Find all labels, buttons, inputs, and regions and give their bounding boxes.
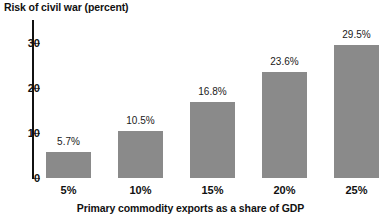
plot-area: 3020100 5.7%10.5%16.8%23.6%29.5% 5%10%15… <box>0 0 381 216</box>
bar <box>118 131 163 178</box>
x-axis-title: Primary commodity exports as a share of … <box>0 202 381 214</box>
x-tick-label: 25% <box>324 185 381 196</box>
bar-value-label: 10.5% <box>108 116 173 126</box>
bar <box>262 72 307 178</box>
bar <box>46 152 91 178</box>
x-tick-label: 15% <box>180 185 245 196</box>
x-tick-label: 20% <box>252 185 317 196</box>
y-tick-label: 30 <box>12 38 40 49</box>
bar-value-label: 16.8% <box>180 87 245 97</box>
bar-chart-figure: Risk of civil war (percent) 3020100 5.7%… <box>0 0 381 216</box>
bar-value-label: 5.7% <box>36 137 101 147</box>
bar-value-label: 23.6% <box>252 57 317 67</box>
bar <box>190 102 235 178</box>
bar <box>334 45 379 178</box>
y-tick-label: 0 <box>12 173 40 184</box>
x-tick-label: 5% <box>36 185 101 196</box>
x-tick-label: 10% <box>108 185 173 196</box>
y-tick-label: 20 <box>12 83 40 94</box>
bar-value-label: 29.5% <box>324 30 381 40</box>
